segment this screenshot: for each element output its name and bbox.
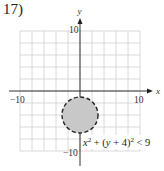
x-axis-label: x [155, 86, 160, 96]
coordinate-plane: x y 10 −10 10 −10 x2 + (y + 4)2 < 9 [0, 0, 164, 171]
inequality-label: x2 + (y + 4)2 < 9 [82, 136, 150, 149]
x-min-tick-label: −10 [10, 95, 25, 105]
solution-region [62, 97, 98, 133]
y-max-tick-label: 10 [69, 25, 79, 35]
x-max-tick-label: 10 [134, 95, 144, 105]
x-axis-arrow-icon [147, 89, 153, 94]
y-min-tick-label: −10 [63, 148, 78, 158]
y-axis-arrow-icon [78, 18, 83, 24]
y-axis-label: y [77, 6, 82, 16]
